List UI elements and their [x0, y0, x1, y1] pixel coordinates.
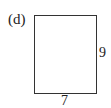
- bottom-side-length-label: 7: [61, 94, 68, 108]
- rectangle-shape: [34, 15, 97, 94]
- right-side-length-label: 9: [99, 46, 106, 60]
- panel-label: (d): [8, 12, 26, 27]
- figure-canvas: (d) 9 7: [0, 0, 111, 108]
